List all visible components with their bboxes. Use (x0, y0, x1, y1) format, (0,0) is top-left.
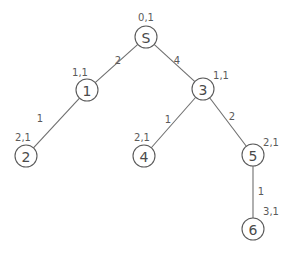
node-annotation-4: 2,1 (134, 132, 150, 143)
node-1: 11,1 (72, 67, 98, 102)
node-5: 52,1 (242, 137, 279, 167)
node-label-5: 5 (249, 148, 258, 164)
edge-3-5 (210, 98, 247, 146)
edge-weight-S-1: 2 (115, 55, 121, 66)
node-3: 31,1 (192, 70, 229, 101)
node-label-4: 4 (140, 149, 149, 165)
tree-diagram: 241121 S0,111,131,122,142,152,163,1 (0, 0, 295, 255)
node-S: S0,1 (135, 12, 157, 49)
node-label-S: S (142, 30, 151, 46)
node-annotation-1: 1,1 (72, 67, 88, 78)
node-2: 22,1 (15, 132, 37, 168)
node-annotation-3: 1,1 (213, 70, 229, 81)
edge-weight-3-4: 1 (165, 114, 171, 125)
node-4: 42,1 (133, 132, 155, 168)
node-label-6: 6 (249, 222, 258, 238)
node-label-3: 3 (199, 82, 208, 98)
edge-weight-1-2: 1 (37, 113, 43, 124)
node-label-1: 1 (83, 83, 92, 99)
node-annotation-5: 2,1 (263, 137, 279, 148)
node-annotation-6: 3,1 (263, 206, 279, 217)
tree-diagram-svg: 241121 S0,111,131,122,142,152,163,1 (0, 0, 295, 255)
edge-weight-3-5: 2 (229, 111, 235, 122)
edge-weight-5-6: 1 (258, 186, 264, 197)
edge-3-4 (151, 97, 195, 147)
node-6: 63,1 (242, 206, 279, 241)
node-label-2: 2 (22, 149, 31, 165)
edge-weight-S-3: 4 (174, 55, 180, 66)
node-annotation-S: 0,1 (138, 12, 154, 23)
node-annotation-2: 2,1 (15, 132, 31, 143)
